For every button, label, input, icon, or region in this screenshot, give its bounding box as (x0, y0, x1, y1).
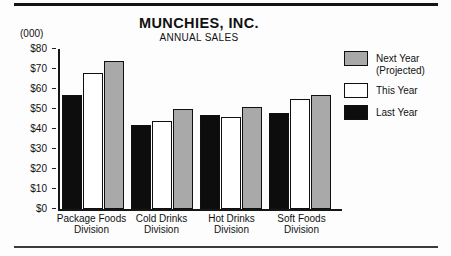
y-tick-label: $60 (30, 84, 47, 94)
legend-swatch-last-year (344, 105, 368, 120)
bar-last-year (269, 113, 289, 209)
legend-label-last-year: Last Year (376, 105, 418, 119)
y-tick-label: $40 (30, 124, 47, 134)
y-tick-mark (52, 168, 56, 169)
y-tick-label: $0 (36, 204, 47, 214)
bar-group (131, 109, 193, 209)
bar-this-year (152, 121, 172, 209)
x-category-label-line: Division (284, 224, 319, 235)
bar-group (200, 107, 262, 209)
y-tick-label: $10 (30, 184, 47, 194)
y-tick-label: $70 (30, 64, 47, 74)
legend-swatch-this-year (344, 83, 368, 98)
x-category-label: Hot DrinksDivision (200, 213, 263, 235)
legend-label-line: Last Year (376, 107, 418, 119)
bar-this-year (221, 117, 241, 209)
y-tick-label: $50 (30, 104, 47, 114)
x-category-label-line: Division (74, 224, 109, 235)
x-category-label-line: Cold Drinks (136, 213, 188, 224)
legend-label-line: Next Year (376, 53, 425, 65)
bar-next-year-projected (242, 107, 262, 209)
bar-next-year-projected (104, 61, 124, 209)
x-category-label-line: Soft Foods (277, 213, 325, 224)
x-category-label: Package FoodsDivision (60, 213, 123, 235)
legend-label-line: (Projected) (376, 65, 425, 77)
bar-last-year (131, 125, 151, 209)
chart-title: MUNCHIES, INC. (58, 15, 340, 31)
y-tick-label: $20 (30, 164, 47, 174)
y-axis-labels: $0$10$20$30$40$50$60$70$80 (0, 49, 56, 209)
plot-area (58, 49, 342, 211)
x-axis-labels: Package FoodsDivisionCold DrinksDivision… (58, 213, 342, 235)
legend-label-next-year: Next Year (Projected) (376, 51, 425, 76)
y-tick-mark (52, 88, 56, 89)
legend: Next Year (Projected) This Year Last Yea… (344, 51, 425, 127)
y-tick-mark (52, 48, 56, 49)
y-tick-mark (52, 148, 56, 149)
bar-this-year (290, 99, 310, 209)
units-label: (000) (20, 28, 43, 39)
top-rule (14, 3, 438, 6)
chart-subtitle: ANNUAL SALES (58, 32, 340, 43)
bar-next-year-projected (311, 95, 331, 209)
legend-swatch-next-year (344, 51, 368, 66)
legend-row-last-year: Last Year (344, 105, 425, 120)
x-category-label-line: Package Foods (57, 213, 127, 224)
y-tick-mark (52, 188, 56, 189)
legend-row-this-year: This Year (344, 83, 425, 98)
y-tick-mark (52, 128, 56, 129)
bar-groups (60, 49, 342, 209)
x-category-label: Cold DrinksDivision (130, 213, 193, 235)
x-category-label-line: Hot Drinks (208, 213, 255, 224)
x-category-label: Soft FoodsDivision (270, 213, 333, 235)
y-tick-mark (52, 68, 56, 69)
bar-next-year-projected (173, 109, 193, 209)
bar-last-year (200, 115, 220, 209)
y-tick-label: $30 (30, 144, 47, 154)
y-tick-label: $80 (30, 44, 47, 54)
bottom-rule (14, 246, 438, 248)
y-tick-mark (52, 108, 56, 109)
x-category-label-line: Division (144, 224, 179, 235)
legend-label-this-year: This Year (376, 83, 418, 97)
bar-group (269, 95, 331, 209)
legend-row-next-year: Next Year (Projected) (344, 51, 425, 76)
bar-this-year (83, 73, 103, 209)
chart-page: MUNCHIES, INC. ANNUAL SALES (000) $0$10$… (0, 0, 451, 256)
x-category-label-line: Division (214, 224, 249, 235)
bar-group (62, 61, 124, 209)
legend-label-line: This Year (376, 85, 418, 97)
chart-header: MUNCHIES, INC. ANNUAL SALES (58, 15, 340, 43)
bar-last-year (62, 95, 82, 209)
y-tick-mark (52, 208, 56, 209)
